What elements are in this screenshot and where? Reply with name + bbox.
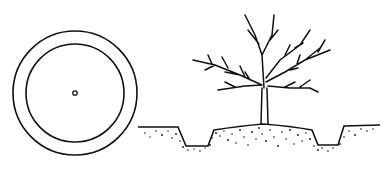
outer-ring — [13, 31, 137, 155]
soil-profile — [138, 124, 380, 152]
tree-basin-drawing — [0, 0, 387, 172]
tree — [193, 15, 330, 124]
inner-ring — [26, 44, 124, 142]
top-view-basin — [13, 31, 137, 155]
illustration — [0, 0, 387, 172]
trunk — [261, 88, 268, 124]
trunk-dot — [73, 91, 77, 95]
